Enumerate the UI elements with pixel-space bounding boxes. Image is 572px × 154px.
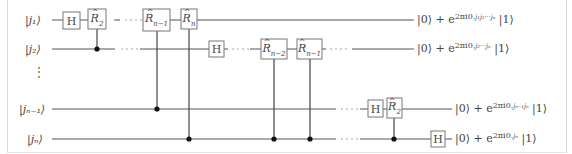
output-exponent-vars: j₂···jₙ [475,42,490,50]
output-exponent: 2πi0. [455,41,476,50]
output-exponent: 2πi0. [493,101,514,110]
output-exponent-vars: jₙ₋₁jₙ [513,102,528,110]
output-exponent: 2πi0. [493,131,514,140]
output-prefix: |0⟩ + e [417,13,455,26]
output-state-j2: |0⟩ + e2πi0.j₂···jₙ |1⟩ [417,41,509,56]
output-exponent-vars: j₁j₂···jₙ [475,13,495,21]
output-state-jn: |0⟩ + e2πi0.jₙ |1⟩ [455,131,536,146]
wire-j2 [52,48,414,49]
input-label-j1: |j₁⟩ [25,14,41,27]
output-exponent-vars: jₙ [513,132,518,140]
gate-label-h: H [371,102,381,115]
gate-subscript: 2 [99,20,103,28]
gate-subscript: n−1 [306,49,321,57]
hat-accent: ^ [389,96,396,105]
output-prefix: |0⟩ + e [455,132,493,145]
input-label-jn: |jₙ⟩ [27,133,43,146]
hat-accent: ^ [147,7,154,16]
control-dot [154,106,159,111]
output-state-j1: |0⟩ + e2πi0.j₁j₂···jₙ |1⟩ [417,12,514,27]
gate-subscript: n−1 [153,20,168,28]
output-suffix: |1⟩ [521,132,536,145]
gate-label-h: H [67,14,77,27]
control-dot [307,136,312,141]
hat-accent: ^ [264,37,271,46]
control-dot [391,136,396,141]
vertical-ellipsis: ⋮ [33,70,45,74]
output-prefix: |0⟩ + e [455,102,493,115]
gate-label-h: H [433,133,443,146]
gate-subscript: n−2 [271,49,286,57]
control-dot [186,136,191,141]
gate-subscript: 2 [396,108,400,116]
input-label-j2: |j₂⟩ [25,43,41,56]
input-label-jn-1: |jₙ₋₁⟩ [19,103,45,116]
control-dot [271,136,276,141]
gate-label-h: H [212,43,222,56]
output-suffix: |1⟩ [499,13,514,26]
control-dot [94,46,99,51]
hat-accent: ^ [184,7,191,16]
hat-accent: ^ [92,7,99,16]
output-suffix: |1⟩ [494,42,509,55]
output-suffix: |1⟩ [532,102,547,115]
hat-accent: ^ [299,37,306,46]
output-prefix: |0⟩ + e [417,42,455,55]
gate-subscript: n [191,20,196,28]
output-exponent: 2πi0. [455,12,476,21]
output-state-jn-1: |0⟩ + e2πi0.jₙ₋₁jₙ |1⟩ [455,101,547,116]
